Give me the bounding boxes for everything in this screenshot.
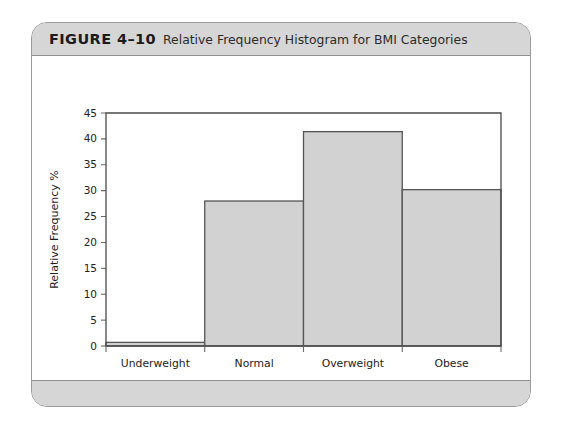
figure-title: Relative Frequency Histogram for BMI Cat… <box>163 32 468 47</box>
figure-card: FIGURE 4–10 Relative Frequency Histogram… <box>31 22 531 407</box>
x-category-label: Overweight <box>322 357 384 370</box>
y-tick-label: 45 <box>84 107 97 119</box>
bar <box>304 132 403 346</box>
y-tick-label: 5 <box>90 314 97 326</box>
figure-caption-bar: FIGURE 4–10 Relative Frequency Histogram… <box>32 23 530 56</box>
y-tick-label: 30 <box>84 184 97 196</box>
chart-plot-region: 051015202530354045 UnderweightNormalOver… <box>32 56 530 382</box>
x-category-label: Underweight <box>121 357 190 370</box>
y-axis-ticks: 051015202530354045 <box>84 107 106 352</box>
y-tick-label: 0 <box>90 340 97 352</box>
histogram-chart: 051015202530354045 UnderweightNormalOver… <box>32 56 530 382</box>
x-category-label: Normal <box>235 357 274 370</box>
y-tick-label: 40 <box>84 132 97 144</box>
x-axis-ticks <box>106 346 501 352</box>
y-tick-label: 10 <box>84 288 97 300</box>
bar <box>205 201 304 346</box>
bar <box>402 190 501 346</box>
y-axis-title: Relative Frequency % <box>48 170 61 289</box>
y-tick-label: 25 <box>84 210 97 222</box>
figure-footer-band <box>32 380 530 406</box>
category-labels: UnderweightNormalOverweightObese <box>121 357 469 370</box>
y-tick-label: 15 <box>84 262 97 274</box>
figure-number: FIGURE 4–10 <box>49 31 156 47</box>
y-tick-label: 20 <box>84 236 97 248</box>
x-category-label: Obese <box>434 357 469 370</box>
y-tick-label: 35 <box>84 158 97 170</box>
bar-group <box>106 132 501 346</box>
